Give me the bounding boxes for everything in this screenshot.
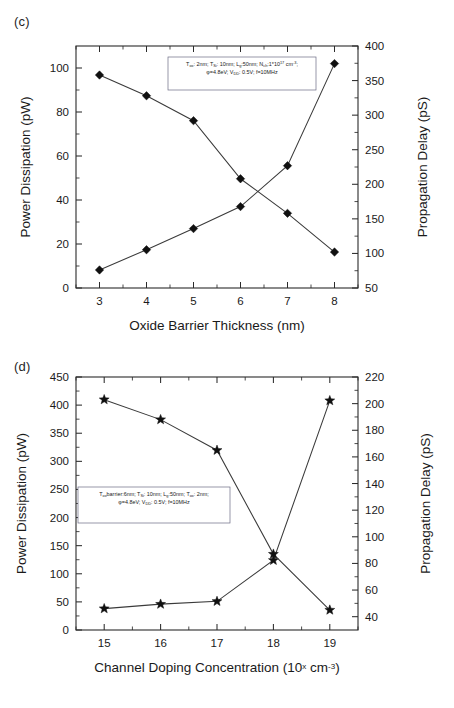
annotation-line-2: φ=4.8eV; VDD: 0.5V; f=10MHz bbox=[206, 69, 278, 76]
svg-text:50: 50 bbox=[56, 596, 69, 608]
svg-text:40: 40 bbox=[365, 611, 378, 623]
svg-text:450: 450 bbox=[50, 371, 69, 383]
svg-text:100: 100 bbox=[365, 247, 384, 259]
svg-text:180: 180 bbox=[365, 424, 384, 436]
y-axis-right-title: Propagation Delay (pS) bbox=[418, 433, 433, 573]
svg-text:350: 350 bbox=[365, 75, 384, 87]
svg-text:4: 4 bbox=[143, 295, 150, 307]
chart-panel-c: (c) 020406080100501001502002503003504003… bbox=[0, 0, 454, 354]
svg-text:80: 80 bbox=[365, 557, 378, 569]
y-axis-left-title: Power Dissipation (pW) bbox=[14, 433, 29, 574]
svg-text:300: 300 bbox=[50, 455, 69, 467]
annotation-line-1: Toxbarrier:6nm; TSi: 10nm; Lg:50nm; Tox:… bbox=[99, 491, 209, 498]
svg-text:150: 150 bbox=[50, 540, 69, 552]
svg-text:350: 350 bbox=[50, 427, 69, 439]
svg-text:6: 6 bbox=[237, 295, 243, 307]
svg-text:250: 250 bbox=[365, 144, 384, 156]
svg-text:100: 100 bbox=[50, 62, 69, 74]
y-axis-right-title: Propagation Delay (pS) bbox=[415, 97, 430, 237]
svg-text:3: 3 bbox=[96, 295, 102, 307]
svg-text:400: 400 bbox=[50, 399, 69, 411]
x-axis-title: Channel Doping Concentration (10x cm-3) bbox=[94, 660, 339, 675]
svg-text:100: 100 bbox=[365, 531, 384, 543]
svg-text:250: 250 bbox=[50, 483, 69, 495]
svg-text:15: 15 bbox=[98, 637, 111, 649]
svg-text:18: 18 bbox=[267, 637, 280, 649]
svg-text:8: 8 bbox=[331, 295, 337, 307]
svg-text:80: 80 bbox=[56, 106, 69, 118]
plot-area-d: 0501001502002503003504004504060801001201… bbox=[0, 354, 454, 708]
chart-panel-d: (d) 050100150200250300350400450406080100… bbox=[0, 354, 454, 708]
svg-text:150: 150 bbox=[365, 213, 384, 225]
annotation-line-2: φ=4.8eV; VDD: 0.5V; f=10MHz bbox=[118, 499, 190, 506]
x-axis-title: Oxide Barrier Thickness (nm) bbox=[129, 318, 304, 333]
svg-text:19: 19 bbox=[323, 637, 336, 649]
svg-text:20: 20 bbox=[56, 238, 69, 250]
svg-text:220: 220 bbox=[365, 371, 384, 383]
svg-text:16: 16 bbox=[154, 637, 167, 649]
svg-text:17: 17 bbox=[211, 637, 224, 649]
figure-container: (c) 020406080100501001502002503003504003… bbox=[0, 0, 454, 708]
svg-text:400: 400 bbox=[365, 40, 384, 52]
svg-text:7: 7 bbox=[284, 295, 290, 307]
svg-text:40: 40 bbox=[56, 194, 69, 206]
svg-text:60: 60 bbox=[56, 150, 69, 162]
svg-text:200: 200 bbox=[365, 398, 384, 410]
svg-text:200: 200 bbox=[365, 178, 384, 190]
svg-text:300: 300 bbox=[365, 109, 384, 121]
y-axis-left-title: Power Dissipation (pW) bbox=[18, 96, 33, 237]
svg-text:0: 0 bbox=[63, 282, 69, 294]
svg-text:50: 50 bbox=[365, 282, 378, 294]
svg-text:100: 100 bbox=[50, 568, 69, 580]
plot-area-c: 0204060801005010015020025030035040034567… bbox=[0, 0, 454, 354]
svg-text:5: 5 bbox=[190, 295, 196, 307]
svg-text:0: 0 bbox=[63, 624, 69, 636]
svg-text:60: 60 bbox=[365, 584, 378, 596]
svg-text:140: 140 bbox=[365, 478, 384, 490]
svg-text:120: 120 bbox=[365, 504, 384, 516]
svg-text:200: 200 bbox=[50, 512, 69, 524]
svg-text:160: 160 bbox=[365, 451, 384, 463]
